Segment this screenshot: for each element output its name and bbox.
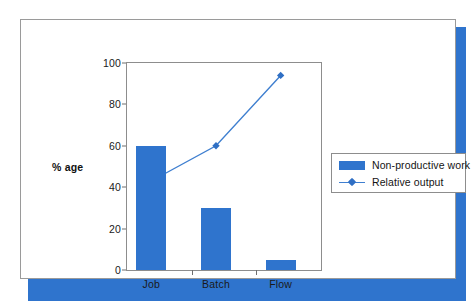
bar-job bbox=[136, 146, 166, 270]
legend-item-relative-output: Relative output bbox=[339, 174, 444, 190]
y-axis-title: % age bbox=[52, 161, 83, 173]
y-tick-label: 80 bbox=[109, 98, 121, 110]
y-axis-tick-labels: 020406080100 bbox=[81, 62, 121, 270]
legend-line-swatch-icon bbox=[339, 178, 365, 187]
y-tick-label: 100 bbox=[103, 57, 121, 69]
legend-label-relative-output: Relative output bbox=[372, 176, 444, 188]
y-tick-label: 0 bbox=[115, 264, 121, 276]
x-tick-mark bbox=[192, 270, 193, 275]
x-tick-label-flow: Flow bbox=[269, 278, 292, 290]
legend-bar-swatch-icon bbox=[339, 161, 365, 170]
bar-batch bbox=[201, 208, 231, 270]
x-tick-mark bbox=[256, 270, 257, 275]
plot-area bbox=[127, 63, 321, 270]
legend-label-non-productive-work: Non-productive work bbox=[372, 159, 470, 171]
legend-item-non-productive-work: Non-productive work bbox=[339, 157, 470, 173]
chart-legend: Non-productive work Relative output bbox=[331, 153, 466, 193]
y-tick-label: 40 bbox=[109, 181, 121, 193]
relative-output-line bbox=[151, 75, 280, 181]
x-tick-label-job: Job bbox=[143, 278, 161, 290]
y-tick-label: 60 bbox=[109, 140, 121, 152]
x-tick-label-batch: Batch bbox=[202, 278, 230, 290]
figure-panel: % age 020406080100 JobBatchFlow Non-prod… bbox=[20, 19, 456, 279]
y-tick-label: 20 bbox=[109, 223, 121, 235]
bar-flow bbox=[266, 260, 296, 270]
